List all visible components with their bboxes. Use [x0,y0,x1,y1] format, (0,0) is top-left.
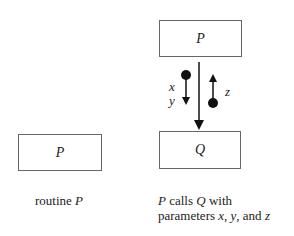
param-x-label: x [169,79,175,94]
param-z-label: z [225,84,230,99]
call-caption: P calls Q with parameters x, y, and z [158,193,270,223]
param-y-label: y [169,93,175,108]
